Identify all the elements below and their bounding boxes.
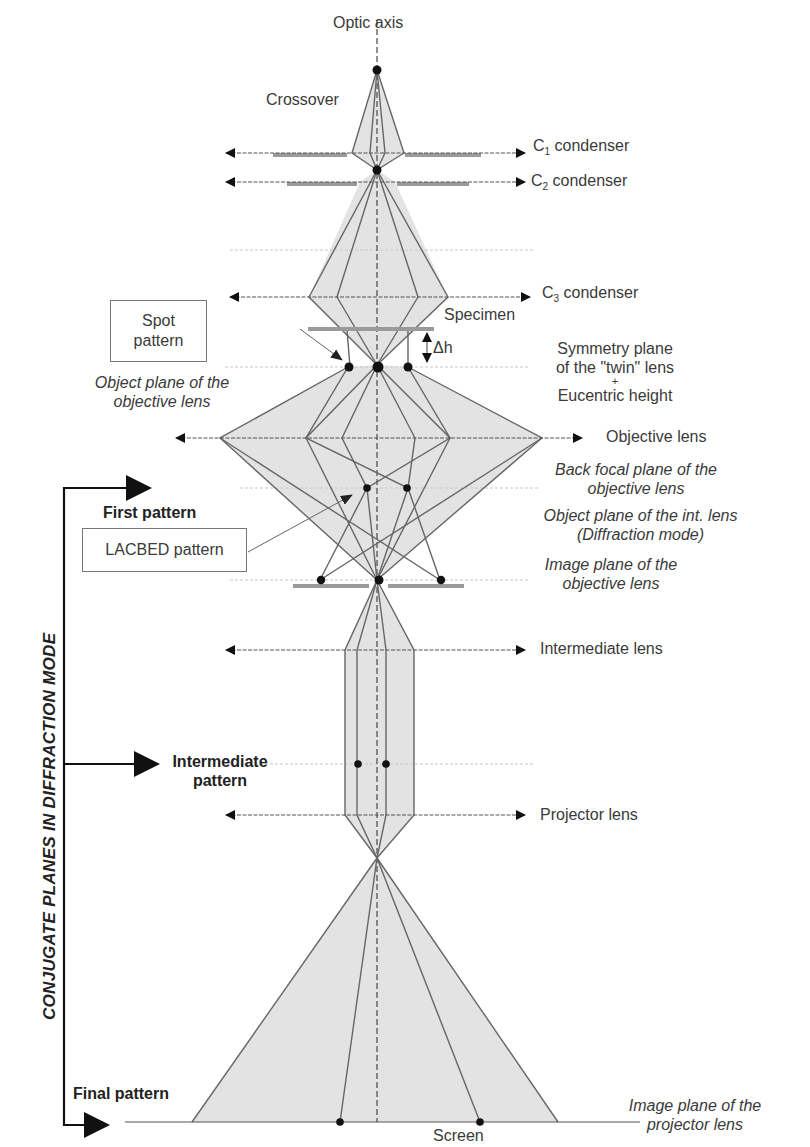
symmetry-plane-label: Symmetry plane of the "twin" lens + Euce…: [540, 339, 690, 405]
first-pattern-label: First pattern: [103, 503, 196, 522]
conjugate-planes-title: CONJUGATE PLANES IN DIFFRACTION MODE: [40, 633, 60, 1020]
final-pattern-label: Final pattern: [73, 1084, 169, 1103]
projector-lens-label: Projector lens: [540, 805, 638, 824]
crossover-dot: [373, 66, 382, 75]
object-plane-objective-label: Object plane of the objective lens: [62, 373, 262, 411]
spot-pointer: [300, 329, 342, 360]
lacbed-pattern-callout: LACBED pattern: [82, 528, 247, 572]
objective-lens-label: Objective lens: [606, 427, 707, 446]
image-plane-projector-label: Image plane of the projector lens: [600, 1096, 790, 1134]
c2-condenser-label: C2 condenser: [531, 171, 627, 196]
back-focal-plane-label: Back focal plane of the objective lens: [516, 460, 756, 498]
screen-label: Screen: [433, 1126, 484, 1145]
specimen-label: Specimen: [444, 305, 515, 324]
c3-condenser-label: C3 condenser: [542, 283, 638, 308]
int-lens-object-plane-label: Object plane of the int. lens (Diffracti…: [508, 506, 773, 544]
delta-h-label: Δh: [433, 338, 453, 357]
specimen-plate: [308, 327, 434, 331]
intermediate-lens-label: Intermediate lens: [540, 639, 663, 658]
crossover-label: Crossover: [266, 90, 339, 109]
intermediate-pattern-label: Intermediate pattern: [170, 752, 270, 790]
image-plane-objective-label: Image plane of the objective lens: [516, 555, 706, 593]
c1-condenser-label: C1 condenser: [533, 136, 629, 161]
optic-axis-label: Optic axis: [333, 13, 403, 32]
conjugate-bracket: [64, 488, 158, 1125]
beam-envelope: [192, 70, 558, 1122]
spot-pattern-callout: Spot pattern: [110, 300, 207, 362]
